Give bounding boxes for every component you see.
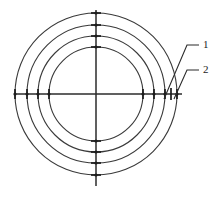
callout-1-label: 1 <box>203 38 209 50</box>
tick-dot-top-r81 <box>94 11 97 14</box>
tick-dot-top-r47 <box>94 45 97 48</box>
tick-dot-left-r58 <box>36 92 39 95</box>
tick-dot-left-r47 <box>47 92 50 95</box>
callout-1-leader <box>164 45 199 99</box>
callout-2-label: 2 <box>203 63 209 75</box>
tick-dot-right-r47 <box>141 92 144 95</box>
tick-dot-left-r69 <box>25 92 28 95</box>
tick-dot-top-r58 <box>94 34 97 37</box>
tick-dot-top-r69 <box>94 23 97 26</box>
figure-container: 1 2 <box>0 0 220 197</box>
tick-dot-right-r58 <box>152 92 155 95</box>
tick-dot-bottom-r47 <box>94 139 97 142</box>
tick-dot-left-r81 <box>13 92 16 95</box>
tick-dot-bottom-r69 <box>94 161 97 164</box>
tick-dot-bottom-r81 <box>94 173 97 176</box>
tick-dot-bottom-r58 <box>94 150 97 153</box>
concentric-circle-diagram: 1 2 <box>0 0 220 197</box>
